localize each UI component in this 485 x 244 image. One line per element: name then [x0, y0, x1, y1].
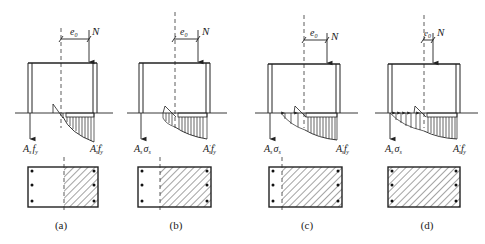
panel-label: (a) [55, 219, 68, 232]
tension-stress-block [281, 113, 305, 130]
panel-c: e0 N Asσs A′sf′y [255, 15, 358, 232]
break-symbol [53, 104, 63, 118]
panel-label: (b) [170, 219, 183, 232]
tension-stress-block [390, 113, 424, 131]
cross-section [28, 157, 98, 213]
column-elevation [139, 63, 210, 113]
break-symbol [163, 106, 176, 117]
compression-stress-block [175, 113, 207, 139]
e0-label: e0 [310, 27, 317, 39]
panel-label: (c) [301, 219, 314, 232]
tension-steel-label: Asσs [133, 143, 151, 155]
compression-stress-block [305, 113, 337, 140]
compression-steel-label: A′sf′y [452, 143, 466, 155]
e0-label: e0 [424, 28, 431, 39]
compression-stress-block [63, 113, 94, 142]
e0-label: e0 [70, 26, 77, 38]
e0-label: e0 [180, 26, 187, 38]
panel-label: (d) [421, 219, 434, 232]
compression-steel-label: A′sf′y [335, 143, 349, 155]
compression-stress-block [424, 113, 457, 139]
cross-section [388, 167, 460, 207]
axial-force-label: N [330, 30, 339, 42]
panel-d: e0 N [375, 15, 478, 232]
tension-steel-label: Asσs [263, 143, 281, 155]
panel-a: e0 N Asfy A′sf′y [15, 25, 113, 232]
tension-steel-label: Asfy [22, 143, 38, 155]
axial-force-label: N [436, 26, 445, 38]
axial-force-label: N [201, 25, 210, 37]
compression-steel-label: A′sf′y [202, 143, 216, 155]
eccentric-compression-diagram: e0 N Asfy A′sf′y [0, 0, 485, 244]
cross-section [269, 157, 342, 213]
axial-force-label: N [91, 25, 100, 37]
compression-steel-label: A′sf′y [89, 143, 103, 155]
tension-stress-block [163, 113, 175, 127]
tension-steel-label: Asσs [384, 143, 402, 155]
column-elevation [28, 63, 97, 113]
panel-b: e0 N Asσs A′sf′y [127, 12, 227, 232]
cross-section [138, 157, 211, 213]
